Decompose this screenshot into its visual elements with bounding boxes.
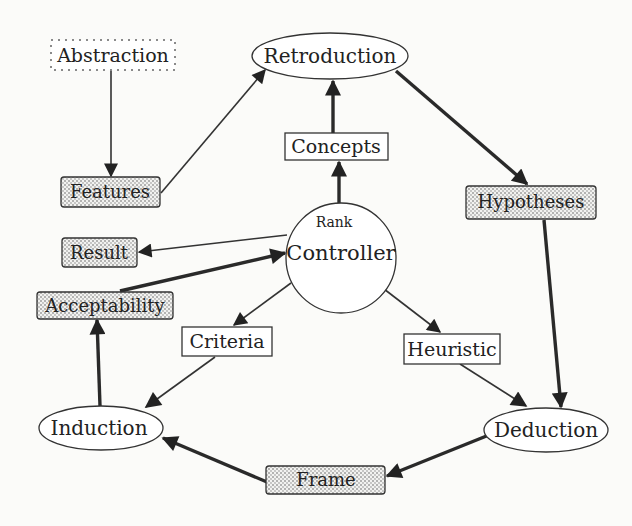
edge-heuristic-to-deduction [460, 364, 526, 406]
node-frame-label: Frame [296, 469, 356, 490]
node-deduction-label: Deduction [494, 418, 598, 442]
node-controller-label: Controller [286, 241, 396, 265]
node-features[interactable]: Features [61, 177, 160, 207]
edge-controller-to-result [139, 235, 287, 252]
reasoning-cycle-diagram: Abstraction Retroduction Concepts Featur… [0, 0, 632, 526]
node-retroduction-label: Retroduction [264, 44, 397, 68]
node-frame[interactable]: Frame [266, 466, 385, 494]
edge-acceptability-to-controller [120, 253, 285, 291]
node-acceptability[interactable]: Acceptability [37, 292, 173, 319]
node-heuristic-label: Heuristic [407, 338, 496, 360]
node-criteria[interactable]: Criteria [182, 327, 272, 356]
edge-induction-to-acceptability [97, 320, 100, 406]
node-abstraction[interactable]: Abstraction [51, 40, 175, 70]
node-result[interactable]: Result [62, 238, 137, 267]
edge-controller-to-heuristic [384, 289, 440, 332]
node-concepts[interactable]: Concepts [285, 133, 388, 160]
node-controller[interactable]: Rank Controller [286, 203, 397, 313]
node-concepts-label: Concepts [291, 135, 381, 157]
edge-frame-to-induction [163, 438, 267, 482]
edge-features-to-retroduction [161, 70, 265, 193]
node-deduction[interactable]: Deduction [484, 408, 608, 452]
node-retroduction[interactable]: Retroduction [252, 33, 408, 79]
edge-deduction-to-frame [387, 435, 489, 476]
node-induction[interactable]: Induction [39, 406, 163, 450]
node-heuristic[interactable]: Heuristic [404, 334, 500, 364]
edge-controller-to-criteria [234, 283, 291, 325]
node-controller-rank-label: Rank [316, 214, 353, 230]
node-abstraction-label: Abstraction [56, 44, 169, 66]
node-induction-label: Induction [50, 416, 147, 440]
node-features-label: Features [70, 181, 150, 202]
node-hypotheses[interactable]: Hypotheses [466, 186, 596, 219]
node-result-label: Result [70, 242, 129, 263]
node-acceptability-label: Acceptability [44, 295, 165, 316]
node-criteria-label: Criteria [189, 330, 264, 352]
node-hypotheses-label: Hypotheses [478, 191, 585, 212]
edge-retroduction-to-hypotheses [396, 71, 527, 184]
edge-hypotheses-to-deduction [544, 220, 561, 407]
edge-criteria-to-induction [146, 357, 215, 407]
